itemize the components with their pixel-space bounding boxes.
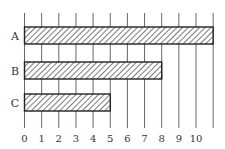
x-tick-label: 0: [21, 133, 27, 144]
bars: [25, 27, 214, 111]
x-tick-label: 9: [176, 133, 182, 144]
category-label: A: [10, 30, 20, 43]
category-labels: ABC: [10, 30, 20, 110]
x-tick-label: 8: [159, 133, 165, 144]
x-tick-label: 10: [190, 133, 203, 144]
category-label: B: [11, 65, 19, 78]
x-tick-label: 3: [73, 133, 79, 144]
x-tick-label: 6: [124, 133, 130, 144]
x-tick-label: 4: [90, 133, 96, 144]
bar-c: [25, 94, 111, 111]
x-tick-label: 1: [38, 133, 44, 144]
bar-chart: ABC 012345678910: [0, 0, 225, 149]
x-tick-label: 5: [107, 133, 113, 144]
bar-b: [25, 62, 162, 79]
x-tick-label: 7: [141, 133, 147, 144]
x-axis-tick-labels: 012345678910: [21, 133, 202, 144]
x-tick-label: 2: [56, 133, 62, 144]
bar-a: [25, 27, 214, 44]
category-label: C: [11, 97, 19, 110]
